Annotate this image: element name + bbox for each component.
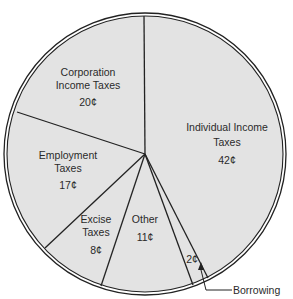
excise-label-line2: Taxes — [82, 226, 109, 238]
excise-value: 8¢ — [90, 244, 102, 256]
individual-label-line1: Individual Income — [186, 121, 268, 133]
employment-label-line2: Taxes — [54, 162, 81, 174]
employment-label-line1: Employment — [39, 149, 97, 161]
employment-value: 17¢ — [59, 179, 77, 191]
corporation-label-line2: Income Taxes — [56, 79, 121, 91]
borrowing-label: Borrowing — [233, 284, 280, 296]
pie-chart: Corporation Income Taxes 20¢ Individual … — [0, 0, 293, 299]
other-value: 11¢ — [137, 231, 154, 243]
corporation-value: 20¢ — [79, 96, 97, 108]
excise-label-line1: Excise — [81, 213, 112, 225]
individual-value: 42¢ — [218, 154, 236, 166]
other-label: Other — [132, 213, 159, 225]
borrowing-value: 2¢ — [186, 253, 198, 265]
corporation-label-line1: Corporation — [61, 66, 116, 78]
individual-label-line2: Taxes — [213, 136, 240, 148]
